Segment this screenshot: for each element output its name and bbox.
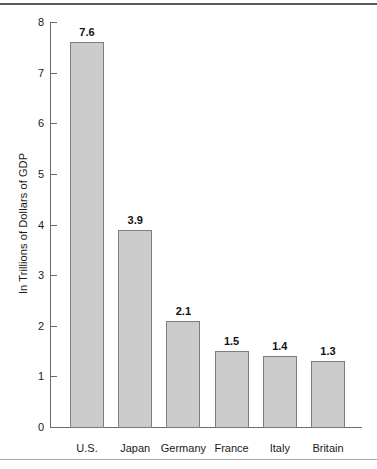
bar[interactable]: [263, 356, 297, 428]
y-tick-mark: [51, 73, 57, 74]
y-tick-mark: [51, 22, 57, 23]
y-tick-mark: [51, 225, 57, 226]
bar[interactable]: [118, 230, 152, 428]
y-tick-label: 0: [4, 422, 44, 433]
bar-value-label: 1.4: [253, 341, 307, 352]
y-tick-mark: [51, 174, 57, 175]
chart-figure: 012345678 In Trillions of Dollars of GDP…: [0, 0, 377, 469]
y-tick-mark: [51, 427, 57, 428]
bar-value-label: 1.3: [301, 346, 355, 357]
y-tick-mark: [51, 275, 57, 276]
bar-value-label: 7.6: [60, 27, 114, 38]
bar[interactable]: [166, 321, 200, 428]
y-tick-mark: [51, 326, 57, 327]
bar[interactable]: [70, 42, 104, 428]
bar-chart-plot-area: 012345678 In Trillions of Dollars of GDP…: [0, 0, 377, 469]
bar-value-label: 2.1: [156, 306, 210, 317]
bar-value-label: 3.9: [108, 215, 162, 226]
bar-value-label: 1.5: [205, 336, 259, 347]
bar[interactable]: [311, 361, 345, 428]
y-tick-label: 7: [4, 68, 44, 79]
y-tick-label: 8: [4, 17, 44, 28]
y-tick-label: 1: [4, 371, 44, 382]
y-tick-mark: [51, 376, 57, 377]
bar[interactable]: [215, 351, 249, 428]
y-axis-title: In Trillions of Dollars of GDP: [18, 114, 29, 334]
x-category-label: Britain: [297, 442, 359, 454]
y-tick-mark: [51, 123, 57, 124]
